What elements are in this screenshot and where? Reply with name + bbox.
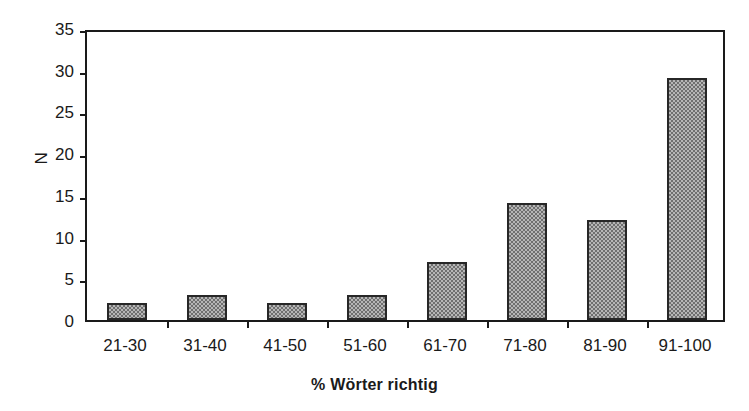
y-axis-tick-label: 20 bbox=[40, 146, 74, 163]
bar-chart: N 05101520253035 21-3031-4041-5051-6061-… bbox=[0, 0, 749, 411]
x-axis-tick-mark bbox=[167, 320, 169, 328]
bar bbox=[667, 78, 707, 320]
bars-layer bbox=[87, 32, 723, 320]
y-axis-tick-label: 10 bbox=[40, 230, 74, 247]
x-axis-tick-label: 71-80 bbox=[485, 337, 565, 354]
bar bbox=[507, 203, 547, 320]
y-axis-tick-label: 0 bbox=[40, 313, 74, 330]
x-axis-tick-label: 91-100 bbox=[645, 337, 725, 354]
y-axis-tick-mark bbox=[80, 281, 87, 283]
y-axis-tick-mark bbox=[80, 31, 87, 33]
y-axis-tick-mark bbox=[80, 156, 87, 158]
y-axis-tick-mark bbox=[80, 240, 87, 242]
bar bbox=[107, 303, 147, 320]
y-axis-tick-label: 30 bbox=[40, 63, 74, 80]
x-axis-tick-mark bbox=[487, 320, 489, 328]
y-axis-tick-mark bbox=[80, 73, 87, 75]
plot-area bbox=[85, 30, 725, 322]
x-axis-tick-label: 41-50 bbox=[245, 337, 325, 354]
bar bbox=[267, 303, 307, 320]
x-axis-tick-label: 81-90 bbox=[565, 337, 645, 354]
x-axis-tick-label: 61-70 bbox=[405, 337, 485, 354]
y-axis-tick-label: 25 bbox=[40, 104, 74, 121]
x-axis-title: % Wörter richtig bbox=[0, 376, 749, 394]
x-axis-tick-label: 51-60 bbox=[325, 337, 405, 354]
bar bbox=[427, 262, 467, 320]
y-axis-tick-mark bbox=[80, 198, 87, 200]
y-axis-tick-label: 35 bbox=[40, 21, 74, 38]
y-axis-tick-label: 15 bbox=[40, 188, 74, 205]
bar bbox=[587, 220, 627, 320]
x-axis-tick-mark bbox=[407, 320, 409, 328]
x-axis-tick-label: 31-40 bbox=[165, 337, 245, 354]
x-axis-tick-mark bbox=[247, 320, 249, 328]
bar bbox=[187, 295, 227, 320]
bar bbox=[347, 295, 387, 320]
y-axis-tick-label: 5 bbox=[40, 271, 74, 288]
y-axis-tick-mark bbox=[80, 114, 87, 116]
x-axis-tick-mark bbox=[327, 320, 329, 328]
x-axis-tick-label: 21-30 bbox=[85, 337, 165, 354]
x-axis-tick-mark bbox=[567, 320, 569, 328]
x-axis-tick-mark bbox=[647, 320, 649, 328]
